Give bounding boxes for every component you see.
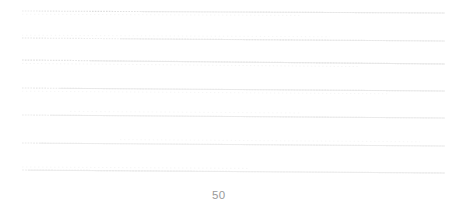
gridline-6-shadow xyxy=(120,140,420,142)
gridline-4-solid-tail xyxy=(60,88,445,91)
gridline-2-solid-tail xyxy=(120,39,445,41)
gridline-1-shadow xyxy=(22,14,300,15)
gridline-6 xyxy=(22,140,445,146)
plot-area: 50 xyxy=(0,0,461,212)
gridline-5 xyxy=(22,111,445,118)
gridline-3-solid-tail xyxy=(90,61,445,64)
x-axis-tick-label: 50 xyxy=(212,189,225,202)
gridline-5-shadow xyxy=(70,111,300,113)
gridline-3 xyxy=(22,60,445,67)
chart-canvas: 50 xyxy=(0,0,461,212)
gridline-7-solid-tail xyxy=(28,170,445,173)
gridline-7-shadow xyxy=(22,167,250,168)
gridline-6-solid-tail xyxy=(40,143,445,146)
gridline-5-solid-tail xyxy=(50,115,445,118)
gridline-4-shadow xyxy=(22,91,390,94)
gridline-7 xyxy=(22,167,445,173)
gridlines-group xyxy=(0,0,461,212)
gridline-3-shadow xyxy=(22,63,360,66)
gridline-2-shadow xyxy=(22,35,330,37)
gridline-4 xyxy=(22,88,445,94)
gridline-2 xyxy=(22,35,445,41)
gridline-1 xyxy=(22,11,445,15)
